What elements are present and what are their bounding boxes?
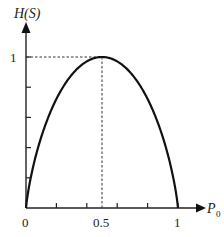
y-tick-label-1: 1	[10, 50, 17, 65]
x-tick-label-0: 0	[22, 215, 29, 230]
x-axis-arrow-icon	[196, 204, 206, 213]
x-axis-label-subscript: 0	[216, 209, 221, 219]
plot-area: H(S) 1 0 0.5 1 P 0	[0, 0, 224, 237]
y-axis-label: H(S)	[13, 6, 41, 22]
x-axis-label: P	[206, 201, 216, 216]
entropy-chart: H(S) 1 0 0.5 1 P 0	[0, 0, 224, 237]
x-ticks	[56, 203, 178, 208]
y-ticks	[26, 57, 31, 178]
x-tick-label-1: 1	[174, 215, 181, 230]
y-axis-arrow-icon	[22, 22, 31, 33]
x-tick-label-0.5: 0.5	[93, 215, 109, 230]
